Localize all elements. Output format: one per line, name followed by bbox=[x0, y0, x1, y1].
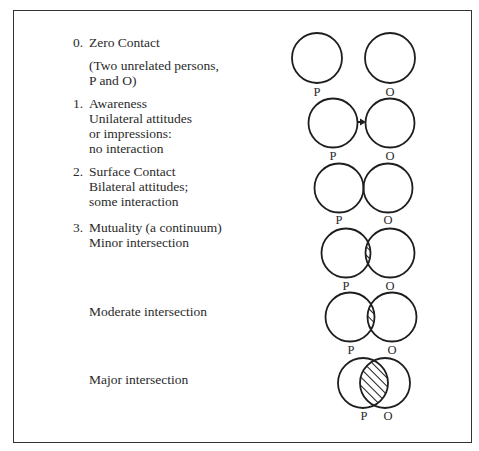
row-0-p-label: P bbox=[314, 85, 321, 99]
row-5-p-label: P bbox=[361, 409, 368, 423]
row-2-o-label: O bbox=[383, 213, 392, 227]
row-1-p-label: P bbox=[330, 149, 337, 163]
row-4-o-label: O bbox=[387, 343, 396, 357]
row-2-surface-contact bbox=[315, 164, 413, 213]
row-5-major-intersection bbox=[338, 358, 410, 408]
o-circle bbox=[365, 33, 415, 83]
row-0-o-label: O bbox=[385, 85, 394, 99]
o-circle bbox=[364, 164, 413, 213]
row-5-o-label: O bbox=[383, 409, 392, 423]
row-3-o-label: O bbox=[385, 279, 394, 293]
row-3-p-label: P bbox=[343, 279, 350, 293]
p-circle bbox=[309, 99, 358, 148]
o-circle bbox=[366, 99, 415, 148]
o-circle bbox=[366, 229, 415, 278]
row-2-p-label: P bbox=[336, 213, 343, 227]
row-0-zero-contact bbox=[292, 33, 415, 83]
p-circle bbox=[315, 164, 364, 213]
row-3-minor-intersection bbox=[322, 229, 415, 278]
row-1-o-label: O bbox=[385, 149, 394, 163]
p-circle bbox=[322, 229, 371, 278]
row-4-p-label: P bbox=[348, 343, 355, 357]
p-circle bbox=[292, 33, 342, 83]
row-4-moderate-intersection bbox=[326, 293, 417, 342]
relationship-circles-diagram: P O P O P O P O P O P O bbox=[0, 0, 479, 451]
